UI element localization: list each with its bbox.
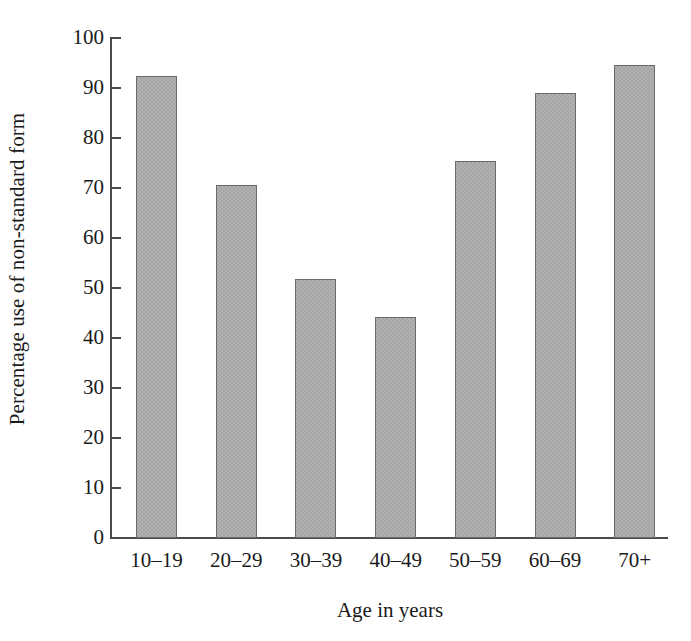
y-axis-tick-label: 80 [44,127,104,148]
y-axis-tick-label: 40 [44,327,104,348]
bar-chart-figure: Percentage use of non-standard form 0102… [0,0,691,641]
y-axis-tick-label: 20 [44,427,104,448]
y-axis-tick-label: 90 [44,77,104,98]
bar [535,93,576,538]
plot-area [110,38,668,538]
bar [136,76,177,538]
y-axis-tick-label: 50 [44,277,104,298]
y-axis-tick-label: 70 [44,177,104,198]
x-axis-category-label: 70+ [585,548,685,573]
y-axis-tick-label: 30 [44,377,104,398]
bar [216,185,257,538]
y-axis-tick-label: 10 [44,477,104,498]
bar [455,161,496,538]
bar [295,279,336,538]
y-axis-title: Percentage use of non-standard form [0,0,34,538]
y-axis-tick-label: 0 [44,527,104,548]
x-axis-title: Age in years [110,598,670,623]
y-axis-tick-label: 100 [44,27,104,48]
y-axis-tick-label: 60 [44,227,104,248]
bar [375,317,416,538]
bar [614,65,655,538]
